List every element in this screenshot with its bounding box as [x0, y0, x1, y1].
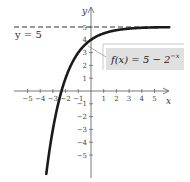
y-tick-label: −4 [77, 139, 88, 147]
x-axis-label: x [166, 96, 171, 106]
y-tick-label: −3 [77, 126, 87, 134]
function-graph: x y −5−4−3−2−112345 −5−4−3−2−112345 y = … [0, 0, 190, 182]
x-tick-label: 4 [140, 95, 145, 103]
asymptote-label: y = 5 [14, 29, 42, 40]
x-tick-label: 1 [101, 95, 105, 103]
function-label-exponent: −x [170, 52, 179, 60]
y-tick-label: −5 [77, 152, 87, 160]
function-label-text: f(x) = 5 − 2−x [110, 52, 180, 65]
y-tick-label: −2 [77, 113, 87, 121]
x-tick-label: −2 [60, 95, 70, 103]
x-tick-label: −4 [35, 95, 46, 103]
x-tick-label: 5 [152, 95, 156, 103]
y-tick-label: 2 [83, 62, 87, 70]
function-label: f(x) = 5 − 2−x [88, 44, 184, 70]
y-tick-label: 3 [83, 49, 87, 57]
x-tick-label: −3 [48, 95, 58, 103]
x-tick-label: 2 [114, 95, 118, 103]
x-tick-label: 3 [127, 95, 131, 103]
function-label-main: f(x) = 5 − 2 [110, 54, 170, 65]
x-tick-label: −5 [22, 95, 32, 103]
y-tick-label: −1 [77, 100, 87, 108]
y-axis-label: y [81, 6, 88, 16]
y-tick-label: 1 [83, 75, 87, 83]
